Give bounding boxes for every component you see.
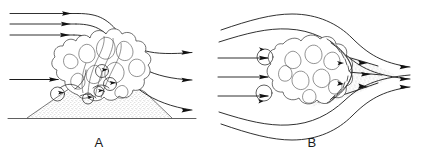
- arrowheads-a-outflow: [182, 50, 193, 112]
- figure-root: A: [0, 0, 428, 157]
- flow-diagram-svg: A: [0, 0, 428, 157]
- panel-b-label: B: [307, 135, 316, 150]
- panel-a-label: A: [94, 135, 103, 150]
- panel-a: A: [8, 11, 196, 150]
- panel-b: B: [218, 14, 410, 150]
